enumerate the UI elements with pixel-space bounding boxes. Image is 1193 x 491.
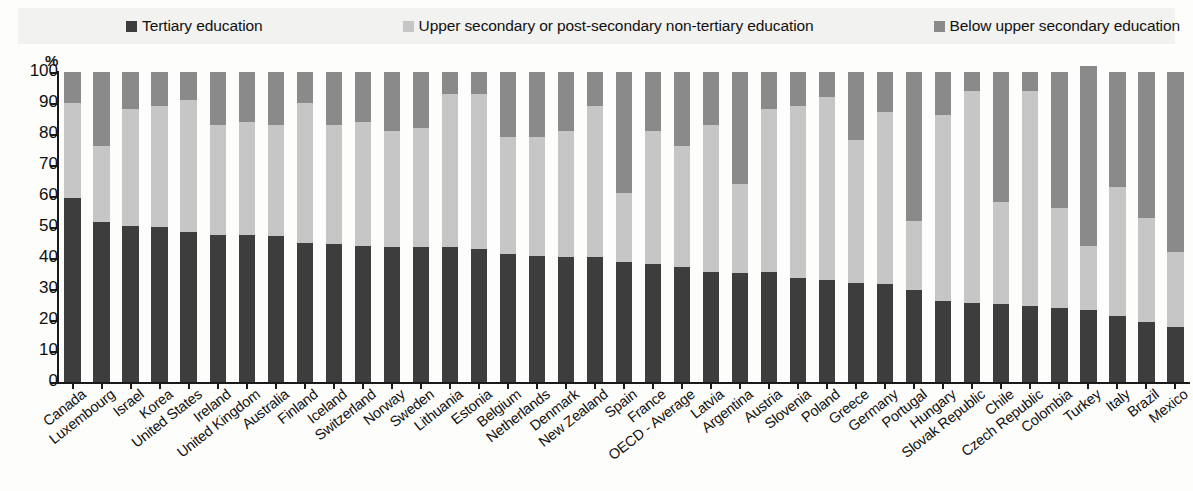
bar-segment	[442, 94, 458, 247]
bar-column[interactable]	[529, 72, 545, 382]
bar-column[interactable]	[674, 72, 690, 382]
bar-segment	[122, 109, 138, 226]
bar-column[interactable]	[1167, 72, 1183, 382]
bar-segment	[761, 109, 777, 272]
bar-column[interactable]	[122, 72, 138, 382]
bar-column[interactable]	[906, 72, 922, 382]
bar-column[interactable]	[1022, 72, 1038, 382]
bar-segment	[151, 72, 167, 106]
bar-segment	[122, 226, 138, 382]
bar-column[interactable]	[413, 72, 429, 382]
bar-segment	[268, 236, 284, 382]
bar-segment	[413, 247, 429, 382]
bar-column[interactable]	[761, 72, 777, 382]
bar-column[interactable]	[703, 72, 719, 382]
bar-column[interactable]	[964, 72, 980, 382]
bar-segment	[413, 128, 429, 247]
bar-segment	[355, 246, 371, 382]
bar-segment	[1109, 72, 1125, 187]
bar-column[interactable]	[819, 72, 835, 382]
bar-column[interactable]	[616, 72, 632, 382]
bar-segment	[558, 72, 574, 131]
bar-column[interactable]	[732, 72, 748, 382]
legend-swatch-tertiary	[126, 21, 137, 32]
bar-segment	[64, 198, 80, 382]
bar-segment	[732, 273, 748, 382]
bar-segment	[790, 106, 806, 278]
bar-column[interactable]	[1138, 72, 1154, 382]
bar-segment	[210, 125, 226, 236]
bar-segment	[413, 72, 429, 128]
legend-label-below-upper-secondary: Below upper secondary education	[950, 17, 1180, 35]
bar-segment	[674, 267, 690, 382]
bar-segment	[819, 280, 835, 382]
bar-segment	[180, 72, 196, 100]
bar-segment	[587, 106, 603, 257]
bar-segment	[558, 131, 574, 257]
bar-segment	[906, 221, 922, 290]
bar-column[interactable]	[790, 72, 806, 382]
bar-segment	[1022, 306, 1038, 382]
bar-column[interactable]	[500, 72, 516, 382]
bar-column[interactable]	[877, 72, 893, 382]
legend-item-below-upper-secondary[interactable]: Below upper secondary education	[934, 17, 1180, 35]
bar-segment	[64, 72, 80, 103]
bar-segment	[1051, 308, 1067, 382]
bar-column[interactable]	[645, 72, 661, 382]
bar-column[interactable]	[993, 72, 1009, 382]
bar-segment	[239, 122, 255, 235]
bar-column[interactable]	[93, 72, 109, 382]
bar-column[interactable]	[210, 72, 226, 382]
bar-segment	[355, 122, 371, 246]
bar-column[interactable]	[1080, 72, 1096, 382]
y-axis-tick-label: 40	[12, 247, 58, 267]
bar-column[interactable]	[471, 72, 487, 382]
bar-segment	[732, 184, 748, 273]
bar-column[interactable]	[442, 72, 458, 382]
y-axis-tick-label: 70	[12, 154, 58, 174]
bar-column[interactable]	[848, 72, 864, 382]
bar-column[interactable]	[355, 72, 371, 382]
bar-segment	[297, 243, 313, 383]
y-axis-tick-label: 20	[12, 309, 58, 329]
bar-column[interactable]	[587, 72, 603, 382]
bar-column[interactable]	[935, 72, 951, 382]
legend-item-tertiary[interactable]: Tertiary education	[126, 17, 263, 35]
legend-item-upper-secondary[interactable]: Upper secondary or post-secondary non-te…	[403, 17, 814, 35]
bar-segment	[1167, 72, 1183, 252]
bar-segment	[529, 256, 545, 382]
chart-figure: Tertiary education Upper secondary or po…	[0, 0, 1193, 491]
bar-segment	[935, 72, 951, 115]
bar-segment	[180, 100, 196, 232]
bar-segment	[384, 131, 400, 247]
bar-segment	[384, 72, 400, 131]
bar-column[interactable]	[180, 72, 196, 382]
bar-column[interactable]	[151, 72, 167, 382]
bar-column[interactable]	[239, 72, 255, 382]
bar-column[interactable]	[64, 72, 80, 382]
bar-segment	[761, 272, 777, 382]
bar-column[interactable]	[326, 72, 342, 382]
bar-segment	[587, 257, 603, 382]
bar-column[interactable]	[297, 72, 313, 382]
y-axis-tick-label: 100	[12, 61, 58, 81]
bar-segment	[964, 91, 980, 303]
bar-segment	[529, 72, 545, 137]
bar-segment	[906, 290, 922, 382]
bar-segment	[703, 125, 719, 272]
bar-column[interactable]	[1109, 72, 1125, 382]
bar-segment	[993, 72, 1009, 202]
bar-segment	[1167, 252, 1183, 327]
bar-segment	[877, 112, 893, 283]
bar-segment	[529, 137, 545, 256]
bar-segment	[326, 244, 342, 382]
bar-column[interactable]	[268, 72, 284, 382]
bar-column[interactable]	[384, 72, 400, 382]
bar-segment	[790, 278, 806, 382]
bar-segment	[1022, 91, 1038, 306]
bar-segment	[442, 247, 458, 382]
bar-column[interactable]	[558, 72, 574, 382]
bar-column[interactable]	[1051, 72, 1067, 382]
bar-segment	[500, 254, 516, 382]
bar-segment	[1138, 218, 1154, 322]
